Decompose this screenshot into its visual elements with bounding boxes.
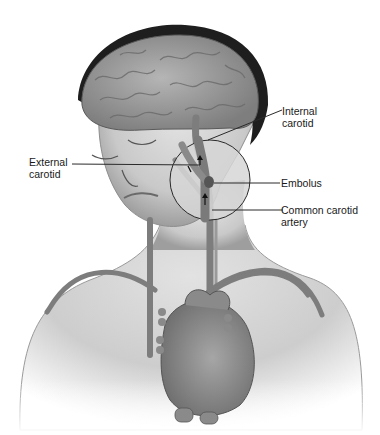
label-external-carotid: External carotid (29, 156, 68, 180)
label-internal-carotid: Internal carotid (282, 105, 317, 129)
label-embolus: Embolus (281, 177, 322, 189)
label-common-carotid: Common carotid artery (281, 204, 358, 228)
embolus-clot (204, 176, 214, 188)
anatomy-illustration: Internal carotid External carotid Embolu… (0, 0, 380, 435)
magnified-view (170, 140, 250, 220)
